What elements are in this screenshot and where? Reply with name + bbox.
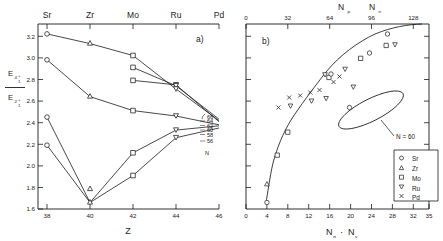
top-axis-nn: N [369, 2, 375, 12]
point-zr [393, 43, 398, 47]
panel-b-label: b) [262, 36, 270, 46]
panel-a-xtick-42: 42 [130, 212, 137, 219]
y-label-denominator: E [8, 93, 13, 102]
marker-mo [131, 53, 136, 58]
xlabel-npi-sub: π [333, 234, 336, 239]
panel-a-x-axis-label: Z [125, 226, 131, 236]
panel-a-xtick-38: 38 [44, 212, 51, 219]
n60-ellipse [334, 84, 408, 136]
marker-mo [131, 65, 136, 70]
panel-b-toptick-32: 32 [284, 14, 291, 21]
marker-zr [88, 94, 93, 99]
panel-b: N p N n 0 32 64 96 128 0 [244, 2, 438, 239]
point-ru [351, 85, 356, 89]
legend-label-zr: Zr [412, 165, 419, 172]
panel-b-toptick-64: 64 [326, 14, 333, 21]
panel-b-xtick-35: 35 [426, 212, 433, 219]
panel-a-x-ticks [47, 204, 219, 209]
panel-a-xtick-44: 44 [173, 212, 180, 219]
panel-b-xtick-28: 28 [389, 212, 396, 219]
point-sr [367, 51, 371, 55]
panel-b-xtick-32: 32 [410, 212, 417, 219]
element-label-pd: Pd [214, 10, 225, 20]
marker-mo [131, 78, 136, 83]
legend-label-sr: Sr [412, 155, 419, 162]
y-label-den-sub2: 1 [18, 103, 21, 108]
isotone-label-56: 56 [207, 138, 213, 144]
panel-a-ytick-1-8: 1.8 [26, 184, 35, 191]
marker-sr [45, 115, 50, 120]
panel-a-markers [45, 32, 179, 205]
n60-annotation: N = 60 [396, 133, 415, 140]
element-label-zr: Zr [86, 10, 94, 20]
panel-b-xtick-12: 12 [305, 212, 312, 219]
legend-icon-circle [400, 156, 404, 160]
marker-sr [45, 143, 50, 148]
top-axis-np: N [338, 2, 344, 12]
y-label-num-sup: + [18, 73, 21, 78]
legend-label-pd: Pd [412, 194, 420, 201]
isotone-label-58: 58 [207, 132, 213, 138]
panel-a-ytick-2-8: 2.8 [26, 76, 35, 83]
point-zr [265, 182, 270, 186]
xlabel-npi: N [326, 227, 333, 237]
point-ru [309, 99, 314, 103]
legend-icon-square [400, 175, 404, 179]
point-mo [275, 153, 279, 157]
top-axis-nn-sub: n [379, 9, 382, 14]
panel-b-x-ticks [246, 204, 429, 209]
element-label-mo: Mo [127, 10, 139, 20]
marker-sr [45, 32, 50, 37]
panel-b-y-ticks [246, 36, 251, 187]
panel-a-xtick-46: 46 [216, 212, 223, 219]
marker-mo [131, 151, 136, 156]
marker-mo [131, 108, 136, 113]
panel-a-xtick-40: 40 [87, 212, 94, 219]
point-pd [318, 88, 322, 92]
point-sr [265, 200, 269, 204]
xlabel-nnu-sub: ν [355, 234, 358, 239]
point-mo [286, 130, 290, 134]
panel-a-isotone-labels: 66 64 62 60 58 56 N [200, 114, 213, 156]
figure-root: Sr Zr Mo Ru Pd 38 40 42 44 46 Z [0, 0, 443, 241]
legend-label-ru: Ru [412, 185, 421, 192]
y-label-num-sub2: 1 [18, 79, 21, 84]
n60-leader-line [381, 120, 394, 136]
figure-svg: Sr Zr Mo Ru Pd 38 40 42 44 46 Z [0, 0, 443, 241]
point-pd [338, 75, 342, 79]
point-pd [332, 80, 336, 84]
panel-b-xtick-4: 4 [265, 212, 269, 219]
point-pd [298, 94, 302, 98]
panel-a-ytick-2-6: 2.6 [26, 97, 35, 104]
point-sr [385, 32, 389, 36]
panel-a-ytick-2-4: 2.4 [26, 119, 35, 126]
legend-label-mo: Mo [412, 175, 421, 182]
point-ru [288, 104, 293, 108]
panel-b-xtick-20: 20 [347, 212, 354, 219]
panel-a: Sr Zr Mo Ru Pd 38 40 42 44 46 Z [5, 10, 224, 236]
point-sr [329, 72, 333, 76]
xlabel-dot: · [340, 227, 343, 237]
panel-a-ytick-2-2: 2.2 [26, 141, 35, 148]
panel-b-legend: Sr Zr Mo Ru Pd [394, 150, 438, 201]
panel-a-y-axis-label: E 4 + 1 E 2 + 1 [5, 69, 25, 108]
panel-a-ytick-2-0: 2.0 [26, 162, 35, 169]
top-axis-np-sub: p [348, 9, 351, 14]
point-sr [347, 105, 351, 109]
curve-n56 [47, 117, 219, 202]
panel-a-top-ticks [47, 24, 219, 29]
panel-b-toptick-128: 128 [408, 14, 419, 21]
point-pd [277, 106, 281, 110]
point-zr [343, 67, 348, 71]
panel-b-points-pd [277, 75, 342, 110]
element-label-sr: Sr [43, 10, 52, 20]
point-pd [287, 96, 291, 100]
point-ru [324, 97, 329, 101]
panel-b-x-axis-label: N π · N ν [326, 227, 358, 239]
panel-b-top-ticks [246, 24, 413, 29]
panel-b-toptick-0: 0 [244, 14, 248, 21]
panel-a-ytick-1-6: 1.6 [26, 205, 35, 212]
panel-b-xtick-8: 8 [286, 212, 290, 219]
panel-b-xtick-16: 16 [326, 212, 333, 219]
element-label-ru: Ru [171, 10, 182, 20]
